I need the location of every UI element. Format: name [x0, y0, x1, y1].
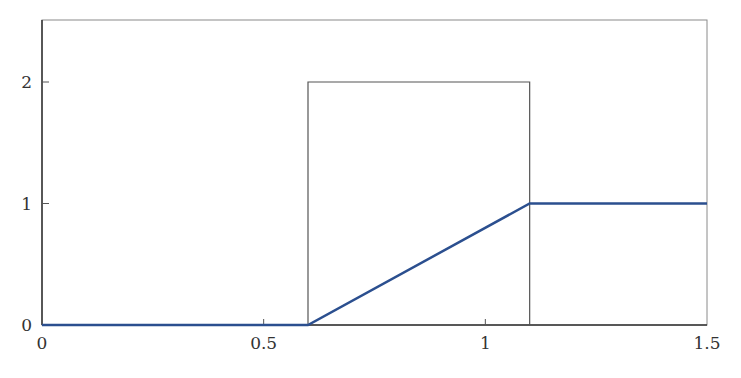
y-tick-label: 0: [21, 315, 32, 335]
x-tick-label: 0.5: [250, 333, 277, 353]
x-tick-label: 0: [37, 333, 48, 353]
ramp-line: [42, 204, 707, 326]
x-tick-label: 1: [480, 333, 491, 353]
plot-frame: [42, 20, 707, 325]
y-tick-label: 1: [21, 194, 32, 214]
chart: 00.511.5012: [0, 0, 741, 378]
series-layer: [42, 82, 707, 325]
x-tick-label: 1.5: [693, 333, 720, 353]
axis-ticks: 00.511.5012: [21, 72, 720, 353]
rectangular-pulse-line: [308, 82, 530, 325]
y-tick-label: 2: [21, 72, 32, 92]
